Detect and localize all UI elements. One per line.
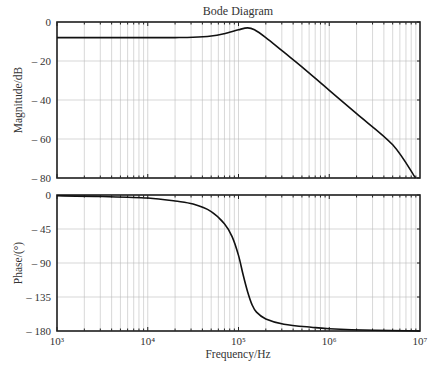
x-tick-label: 10⁷ — [413, 335, 428, 347]
y-tick-label: 0 — [46, 16, 52, 28]
phase-grid — [57, 195, 420, 331]
x-tick-labels: 10³10⁴10⁵10⁶10⁷ — [50, 335, 428, 347]
x-tick-label: 10⁶ — [322, 335, 337, 347]
x-axis-label: Frequency/Hz — [205, 348, 270, 361]
magnitude-y-tick-labels: 0– 20– 40– 60– 80 — [31, 16, 52, 184]
y-tick-label: – 40 — [31, 94, 52, 106]
y-tick-label: 0 — [46, 189, 52, 201]
y-tick-label: – 60 — [31, 133, 52, 145]
x-tick-label: 10³ — [50, 335, 65, 347]
phase-y-axis-label: Phase/(°) — [12, 242, 25, 284]
magnitude-grid — [57, 22, 420, 178]
y-tick-label: – 45 — [31, 223, 52, 235]
y-tick-label: – 180 — [25, 325, 51, 337]
x-tick-label: 10⁴ — [140, 335, 155, 347]
y-tick-label: – 20 — [31, 55, 52, 67]
bode-diagram: Bode Diagram 0– 20– 40– 60– 80 0– 45– 90… — [0, 0, 437, 372]
magnitude-curve — [57, 28, 416, 178]
magnitude-y-axis-label: Magnitude/dB — [12, 66, 25, 133]
y-tick-label: – 80 — [31, 172, 52, 184]
phase-y-tick-labels: 0– 45– 90– 135– 180 — [25, 189, 51, 337]
chart-title: Bode Diagram — [203, 4, 274, 18]
x-tick-label: 10⁵ — [231, 335, 246, 347]
y-tick-label: – 135 — [25, 291, 51, 303]
y-tick-label: – 90 — [31, 257, 52, 269]
